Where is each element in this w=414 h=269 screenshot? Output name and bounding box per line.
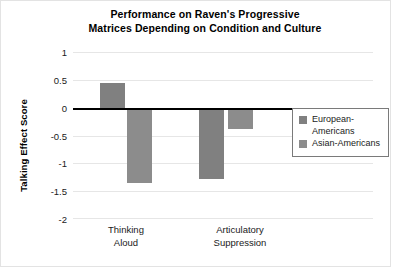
x-category-line-2: Suppression	[180, 237, 300, 250]
legend-label-line-1: European-	[312, 114, 354, 124]
legend: European- Americans Asian-Americans	[292, 108, 389, 157]
legend-item-asian-americans: Asian-Americans	[293, 138, 388, 150]
x-category-line-2: Aloud	[73, 237, 179, 250]
y-tick-label: 1	[62, 47, 67, 58]
y-tick-label: -1.5	[51, 186, 67, 197]
chart-title: Performance on Raven's Progressive Matri…	[40, 8, 370, 35]
legend-swatch-icon	[299, 140, 307, 148]
legend-label-line-2: Americans	[312, 126, 355, 136]
chart-title-line-2: Matrices Depending on Condition and Cult…	[40, 22, 370, 36]
legend-swatch-icon	[299, 116, 307, 124]
chart-screenshot: Performance on Raven's Progressive Matri…	[0, 0, 414, 269]
chart-title-line-1: Performance on Raven's Progressive	[40, 8, 370, 22]
legend-label-european-americans: European- Americans	[312, 114, 355, 137]
y-tick-label: -0.5	[51, 130, 67, 141]
x-category-label-thinking-aloud: Thinking Aloud	[73, 224, 179, 249]
y-tick-label: -2	[59, 214, 67, 225]
bar-thinking-aloud-european-americans	[100, 83, 125, 108]
bar-articulatory-suppression-european-americans	[199, 108, 224, 179]
legend-item-european-americans: European- Americans	[293, 114, 388, 137]
legend-label-asian-americans: Asian-Americans	[312, 138, 380, 150]
bar-articulatory-suppression-asian-americans	[228, 108, 253, 129]
bar-thinking-aloud-asian-americans	[127, 108, 152, 183]
gridline	[73, 52, 373, 53]
y-axis-tick-labels: 1 0.5 0 -0.5 -1 -1.5 -2	[0, 52, 73, 219]
y-tick-label: 0	[62, 102, 67, 113]
gridline	[73, 191, 373, 192]
x-category-line-1: Thinking	[73, 224, 179, 237]
y-tick-label: 0.5	[54, 74, 67, 85]
x-category-label-articulatory-suppression: Articulatory Suppression	[180, 224, 300, 249]
y-tick-label: -1	[59, 158, 67, 169]
gridline	[73, 80, 373, 81]
gridline	[73, 218, 373, 219]
x-category-line-1: Articulatory	[180, 224, 300, 237]
